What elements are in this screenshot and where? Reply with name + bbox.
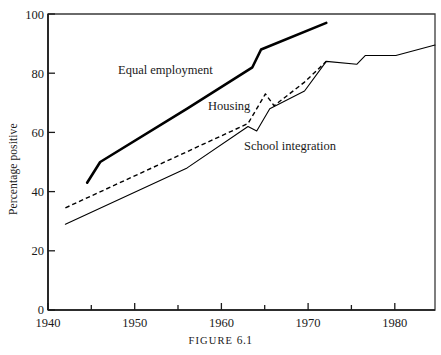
line-chart: 100 80 60 40 20 0 Percentage positive 19… bbox=[0, 0, 441, 355]
figure-container: 100 80 60 40 20 0 Percentage positive 19… bbox=[0, 0, 441, 355]
y-tick-label-40: 40 bbox=[32, 185, 45, 199]
axis-frame bbox=[48, 14, 435, 310]
y-tick-label-60: 60 bbox=[32, 126, 45, 140]
x-axis-ticks bbox=[48, 303, 395, 310]
y-axis-ticks bbox=[48, 14, 55, 310]
y-tick-label-100: 100 bbox=[25, 8, 44, 22]
figure-caption: FIGURE 6.1 bbox=[0, 334, 441, 346]
y-tick-label-80: 80 bbox=[32, 67, 45, 81]
x-tick-label-1970: 1970 bbox=[296, 316, 321, 330]
x-tick-label-1940: 1940 bbox=[36, 316, 61, 330]
series-label-housing: Housing bbox=[208, 99, 251, 113]
series-annotations: Equal employment Housing School integrat… bbox=[118, 63, 337, 153]
series-label-school-integration: School integration bbox=[244, 139, 337, 153]
x-tick-label-1950: 1950 bbox=[122, 316, 147, 330]
series-label-equal-employment: Equal employment bbox=[118, 63, 213, 77]
x-tick-label-1980: 1980 bbox=[382, 316, 407, 330]
y-tick-label-0: 0 bbox=[38, 303, 44, 317]
y-axis-tick-labels: 100 80 60 40 20 0 bbox=[25, 8, 44, 317]
x-axis-tick-labels: 1940 1950 1960 1970 1980 bbox=[36, 316, 408, 330]
y-axis-title: Percentage positive bbox=[7, 123, 20, 215]
figure-caption-prefix: FIGURE bbox=[189, 335, 234, 346]
x-tick-label-1960: 1960 bbox=[209, 316, 234, 330]
series-line-housing bbox=[65, 61, 326, 208]
series-line-equal-employment bbox=[87, 23, 326, 183]
figure-caption-number: 6.1 bbox=[237, 334, 253, 346]
y-tick-label-20: 20 bbox=[32, 244, 45, 258]
data-series-group bbox=[65, 23, 435, 224]
plot-border bbox=[48, 14, 435, 310]
